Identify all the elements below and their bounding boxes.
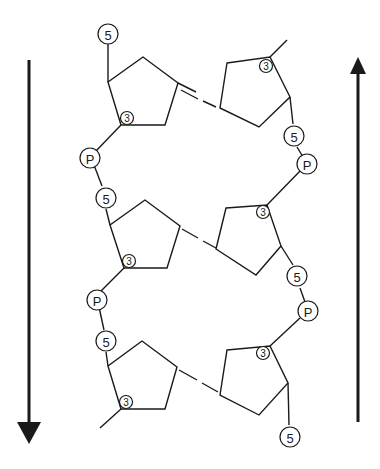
svg-text:5: 5	[104, 28, 111, 43]
left-sugar-1-three-label: 3	[121, 112, 134, 125]
svg-text:3: 3	[260, 207, 266, 218]
svg-text:5: 5	[290, 130, 297, 145]
right-phosphate-2: P	[298, 301, 318, 321]
left-phosphate-2: P	[87, 290, 107, 310]
left-sugar-3	[108, 341, 177, 409]
left-five-prime-top: 5	[98, 24, 118, 44]
right-sugar-2-three-label: 3	[257, 206, 270, 219]
right-sugar-2	[216, 205, 281, 275]
svg-text:3: 3	[123, 397, 129, 408]
svg-text:3: 3	[260, 348, 266, 359]
left-sugar-1	[108, 57, 178, 125]
right-strand-up-arrow	[350, 57, 366, 422]
svg-text:3: 3	[124, 113, 130, 124]
svg-text:3: 3	[263, 61, 269, 72]
svg-text:3: 3	[126, 256, 132, 267]
left-sugar-3-three-label: 3	[120, 396, 133, 409]
right-five-prime-bottom: 5	[280, 427, 300, 447]
right-sugar-1-three-label: 3	[260, 60, 273, 73]
right-sugar-3-three-label: 3	[257, 347, 270, 360]
right-sugar-1-five-label: 5	[284, 126, 304, 146]
svg-text:P: P	[303, 158, 312, 173]
svg-text:5: 5	[293, 270, 300, 285]
right-phosphate-1: P	[297, 154, 317, 174]
right-sugar-1	[220, 57, 290, 127]
svg-text:5: 5	[102, 192, 109, 207]
svg-text:5: 5	[286, 431, 293, 446]
left-sugar-3-five-label: 5	[96, 331, 116, 351]
svg-text:5: 5	[102, 335, 109, 350]
right-strand	[216, 40, 305, 425]
left-sugar-2-three-label: 3	[123, 255, 136, 268]
right-sugar-3	[220, 346, 288, 415]
right-sugar-2-five-label: 5	[287, 266, 307, 286]
svg-text:P: P	[86, 152, 95, 167]
svg-text:P: P	[304, 305, 313, 320]
left-sugar-2-five-label: 5	[96, 188, 116, 208]
base-pair-bonds	[179, 90, 218, 392]
left-sugar-2	[110, 200, 180, 268]
left-strand-down-arrow	[17, 60, 41, 444]
svg-text:P: P	[93, 294, 102, 309]
left-phosphate-1: P	[80, 148, 100, 168]
diagram-canvas: 5 3 P 5 3 P 5 3 3 5 P 3	[0, 0, 380, 469]
dna-diagram: 5 3 P 5 3 P 5 3 3 5 P 3	[0, 0, 380, 469]
